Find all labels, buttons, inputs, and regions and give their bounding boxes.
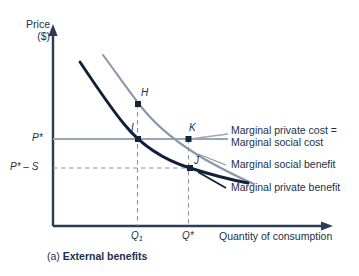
point-label-H: H — [141, 87, 148, 99]
caption-title: External benefits — [63, 250, 148, 262]
point-label-J: J — [194, 155, 199, 167]
curve-label-marginal-private-benefit: Marginal private benefit — [231, 181, 340, 193]
curve-label-marginal-cost-line1: Marginal private cost = — [231, 124, 337, 136]
point-marker-H — [135, 101, 141, 107]
point-label-I: I — [131, 122, 134, 134]
caption-prefix: (a) — [47, 250, 60, 262]
x-tick-label-q-star: Q* — [182, 230, 194, 242]
y-axis-title-line1: Price — [17, 18, 50, 30]
curve-label-marginal-cost-line2: Marginal social cost — [231, 136, 337, 148]
point-label-K: K — [189, 122, 196, 134]
y-axis-title: Price ($) — [17, 18, 50, 43]
curve-label-marginal-cost: Marginal private cost = Marginal social … — [231, 124, 337, 149]
y-axis — [48, 24, 57, 226]
y-tick-label-p-star-minus-s: P* – S — [10, 161, 38, 173]
point-marker-J — [187, 165, 193, 171]
point-marker-I — [135, 136, 141, 142]
point-marker-K — [186, 136, 192, 142]
figure-caption: (a) External benefits — [47, 250, 147, 262]
x-axis-title: Quantity of consumption — [219, 230, 332, 242]
curve-label-marginal-social-benefit: Marginal social benefit — [231, 158, 335, 170]
y-axis-title-line2: ($) — [17, 30, 50, 42]
y-tick-label-p-star: P* — [32, 132, 43, 144]
external-benefits-figure: Price ($) P* P* – S Q1 Q* Quantity of co… — [0, 0, 359, 276]
x-tick-label-q1: Q1 — [131, 230, 143, 243]
marginal-private-benefit-curve — [80, 62, 248, 183]
